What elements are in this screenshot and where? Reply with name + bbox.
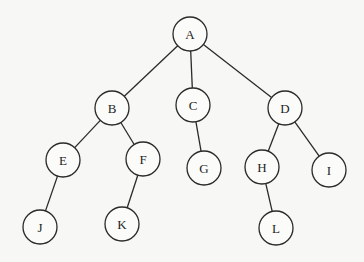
tree-node-i: I [312, 153, 346, 187]
node-label: J [37, 220, 42, 235]
edge-d-h [268, 124, 279, 151]
tree-node-d: D [268, 91, 302, 125]
tree-node-a: A [173, 17, 207, 51]
node-label: C [189, 98, 198, 113]
tree-node-l: L [259, 211, 293, 245]
edge-c-g [196, 122, 201, 152]
node-label: H [257, 160, 266, 175]
edge-b-e [75, 120, 101, 147]
node-label: B [108, 101, 117, 116]
tree-node-c: C [176, 88, 210, 122]
tree-node-b: B [95, 91, 129, 125]
edge-d-i [295, 122, 319, 156]
edge-b-f [121, 123, 134, 145]
node-label: K [117, 217, 127, 232]
tree-node-g: G [187, 151, 221, 185]
edge-h-l [266, 184, 272, 212]
tree-node-e: E [46, 143, 80, 177]
tree-node-h: H [245, 150, 279, 184]
nodes-layer: ABCDEFGHIJKL [23, 17, 346, 245]
edge-e-j [46, 176, 58, 211]
tree-node-j: J [23, 210, 57, 244]
node-label: L [272, 221, 280, 236]
node-label: A [185, 27, 195, 42]
edge-f-k [127, 175, 138, 208]
edges-layer [46, 44, 320, 211]
tree-node-f: F [126, 142, 160, 176]
node-label: D [280, 101, 289, 116]
edge-a-c [191, 51, 193, 88]
node-label: F [139, 152, 146, 167]
edge-a-b [124, 46, 177, 97]
node-label: G [199, 161, 208, 176]
node-label: I [327, 163, 331, 178]
tree-node-k: K [105, 207, 139, 241]
edge-a-d [203, 44, 271, 97]
node-label: E [59, 153, 67, 168]
tree-diagram: ABCDEFGHIJKL [0, 0, 364, 262]
